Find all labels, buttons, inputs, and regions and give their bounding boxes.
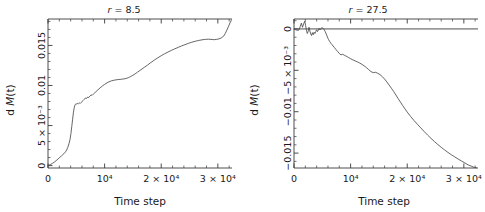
chart-left-ytick-2: 0.01	[36, 75, 47, 96]
chart-left-xaxis-title: Time step	[113, 195, 166, 207]
chart-right-xtick-1: 10⁴	[343, 173, 359, 184]
chart-left-ytick-0: 0	[36, 163, 47, 169]
chart-right-ytick-2: −0.01	[282, 97, 293, 126]
chart-right-ytick-0: 0	[282, 26, 293, 32]
chart-right-xaxis-title: Time step	[357, 195, 410, 207]
chart-right-ytick-3: −0.015	[282, 136, 293, 171]
chart-left-axes	[48, 19, 232, 168]
chart-right-xtick-0: 0	[291, 173, 297, 184]
chart-right-ytick-1: −5 × 10⁻³	[282, 46, 293, 95]
chart-left: r = 8.5 010⁴2 × 10⁴3 × 10⁴05 × 10⁻³0.010…	[0, 0, 242, 212]
chart-right: r = 27.5 010⁴2 × 10⁴3 × 10⁴0−5 × 10⁻³−0.…	[242, 0, 485, 212]
chart-left-ticklabels: 010⁴2 × 10⁴3 × 10⁴05 × 10⁻³0.010.015	[36, 32, 236, 184]
panel-right-title-value: 27.5	[366, 4, 387, 15]
figure-container: r = 8.5 010⁴2 × 10⁴3 × 10⁴05 × 10⁻³0.010…	[0, 0, 485, 212]
panel-left-title: r = 8.5	[107, 4, 140, 15]
chart-right-curve	[294, 21, 476, 168]
chart-left-xtick-0: 0	[45, 173, 51, 184]
panel-left-title-value: 8.5	[125, 4, 140, 15]
chart-left-curve	[48, 20, 231, 165]
chart-left-xtick-2: 2 × 10⁴	[143, 173, 179, 184]
panel-right-title: r = 27.5	[348, 4, 387, 15]
chart-left-ytick-1: 5 × 10⁻³	[36, 105, 47, 146]
chart-right-axes	[294, 19, 478, 168]
chart-left-ytick-3: 0.015	[36, 32, 47, 59]
chart-left-xtick-3: 3 × 10⁴	[200, 173, 236, 184]
chart-right-ticklabels: 010⁴2 × 10⁴3 × 10⁴0−5 × 10⁻³−0.01−0.015	[282, 26, 482, 184]
chart-right-yaxis-title: d M(t)	[248, 84, 260, 115]
panel-left: r = 8.5 010⁴2 × 10⁴3 × 10⁴05 × 10⁻³0.010…	[0, 0, 242, 212]
chart-left-xtick-1: 10⁴	[97, 173, 113, 184]
chart-right-xtick-3: 3 × 10⁴	[446, 173, 482, 184]
chart-right-xtick-2: 2 × 10⁴	[389, 173, 425, 184]
chart-left-yaxis-title: d M(t)	[4, 84, 16, 115]
panel-right: r = 27.5 010⁴2 × 10⁴3 × 10⁴0−5 × 10⁻³−0.…	[242, 0, 484, 212]
